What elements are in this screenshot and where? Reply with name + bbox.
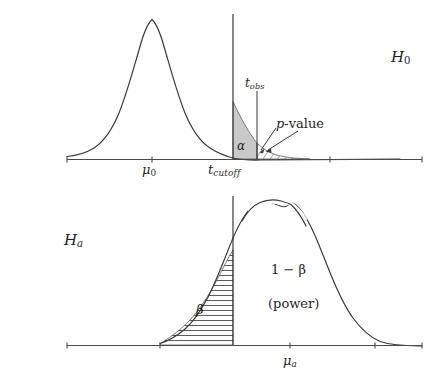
label-h-alt: Ha (64, 233, 83, 249)
label-beta: β (196, 303, 204, 316)
statistics-figure (0, 0, 440, 377)
label-mu-zero: μ0 (142, 163, 156, 178)
label-t-cutoff: tcutoff (208, 163, 240, 178)
label-one-minus-beta: 1 − β (271, 263, 306, 276)
label-t-obs: tobs (245, 77, 265, 90)
label-mu-a: μa (283, 354, 297, 369)
label-alpha: α (237, 140, 245, 152)
label-power: (power) (268, 297, 319, 310)
label-h-null: H0 (391, 50, 411, 66)
bottom-panel (67, 196, 422, 349)
label-p-value: p-value (276, 117, 324, 130)
